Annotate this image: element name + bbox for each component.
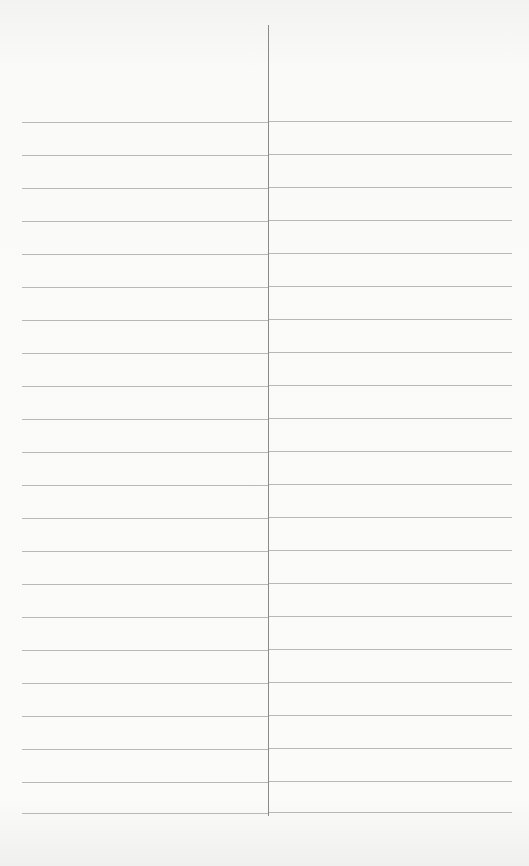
left-column-line <box>22 419 268 420</box>
left-column-line <box>22 452 268 453</box>
left-column-line <box>22 353 268 354</box>
left-column-line <box>22 782 268 783</box>
right-column-line <box>269 583 512 584</box>
left-column-line <box>22 155 268 156</box>
right-column-line <box>269 319 512 320</box>
ruled-sheet <box>0 0 529 866</box>
left-column-line <box>22 221 268 222</box>
right-column-line <box>269 220 512 221</box>
left-column-line <box>22 254 268 255</box>
left-column-line <box>22 683 268 684</box>
right-column-line <box>269 418 512 419</box>
right-column-line <box>269 121 512 122</box>
right-column-line <box>269 352 512 353</box>
left-column-line <box>22 716 268 717</box>
left-column-line <box>22 386 268 387</box>
right-column-line <box>269 154 512 155</box>
right-column-line <box>269 484 512 485</box>
right-column-line <box>269 385 512 386</box>
left-column-line <box>22 617 268 618</box>
left-column-line <box>22 650 268 651</box>
right-column-line <box>269 682 512 683</box>
right-column-line <box>269 715 512 716</box>
left-column-line <box>22 188 268 189</box>
left-column-line <box>22 122 268 123</box>
right-column-line <box>269 812 512 813</box>
column-divider <box>268 25 269 816</box>
right-column-line <box>269 517 512 518</box>
left-column-line <box>22 518 268 519</box>
right-column-line <box>269 616 512 617</box>
left-column-line <box>22 584 268 585</box>
right-column-line <box>269 649 512 650</box>
left-column-line <box>22 551 268 552</box>
right-column-line <box>269 550 512 551</box>
left-column-line <box>22 813 268 814</box>
left-column-line <box>22 749 268 750</box>
right-column-line <box>269 286 512 287</box>
right-column-line <box>269 253 512 254</box>
left-column-line <box>22 320 268 321</box>
left-column-line <box>22 287 268 288</box>
right-column-line <box>269 451 512 452</box>
right-column-line <box>269 748 512 749</box>
right-column-line <box>269 187 512 188</box>
right-column-line <box>269 781 512 782</box>
left-column-line <box>22 485 268 486</box>
